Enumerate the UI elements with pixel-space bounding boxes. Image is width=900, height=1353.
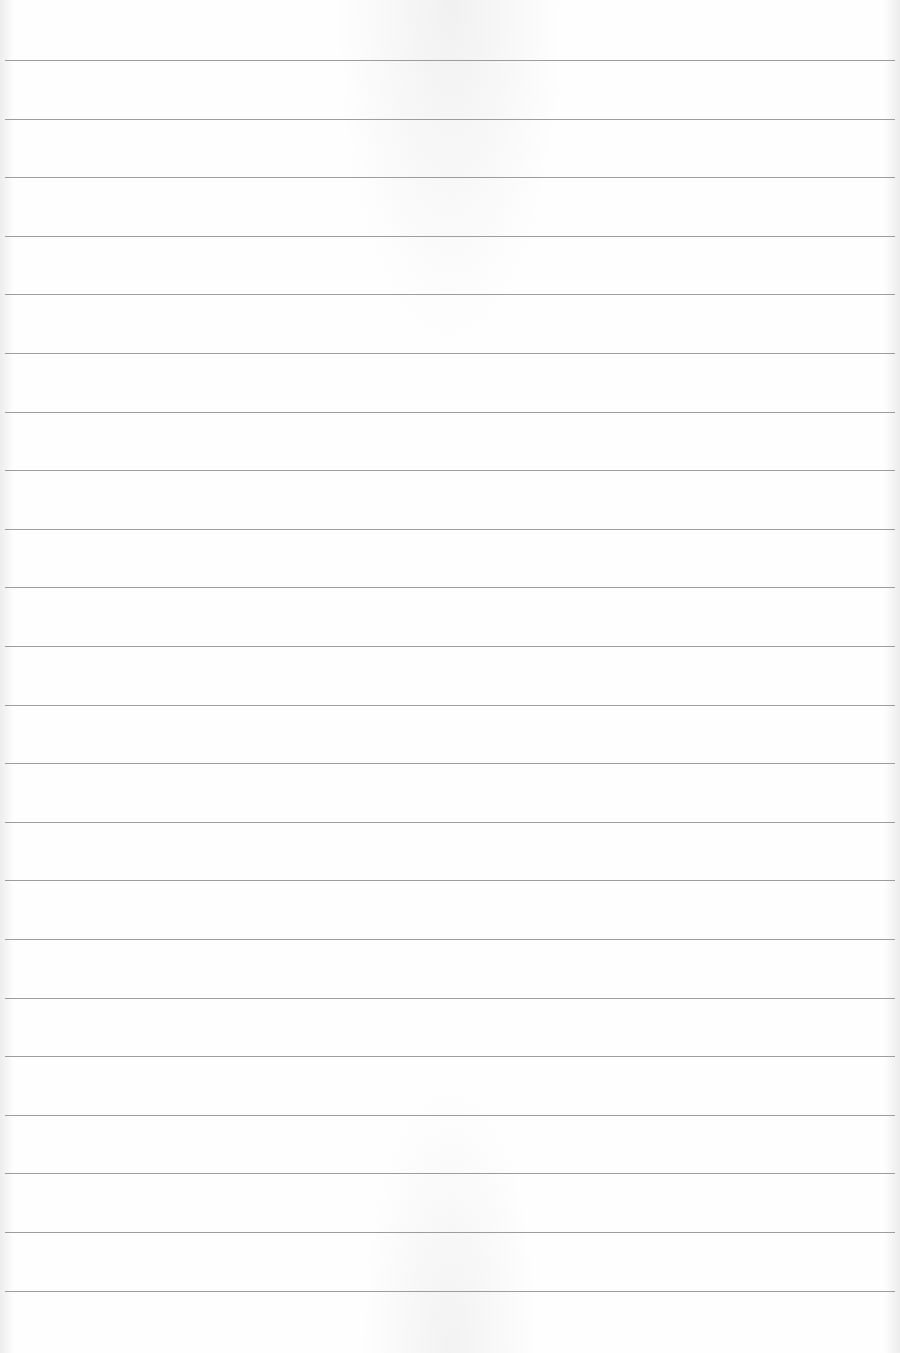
ruled-line [5, 470, 895, 471]
ruled-paper-sheet [0, 0, 900, 1353]
ruled-line [5, 177, 895, 178]
ruled-line [5, 119, 895, 120]
ruled-line [5, 587, 895, 588]
ruled-line [5, 939, 895, 940]
ruled-line [5, 998, 895, 999]
ruled-line [5, 1115, 895, 1116]
ruled-line [5, 353, 895, 354]
ruled-line [5, 529, 895, 530]
ruled-line [5, 236, 895, 237]
ruled-line [5, 705, 895, 706]
ruled-line [5, 1291, 895, 1292]
ruled-line [5, 646, 895, 647]
ruled-line [5, 60, 895, 61]
ruled-line [5, 822, 895, 823]
ruled-line [5, 294, 895, 295]
ruled-line [5, 1173, 895, 1174]
ruled-line [5, 763, 895, 764]
ruled-line [5, 880, 895, 881]
ruled-line [5, 412, 895, 413]
ruled-line [5, 1056, 895, 1057]
ruled-line [5, 1232, 895, 1233]
